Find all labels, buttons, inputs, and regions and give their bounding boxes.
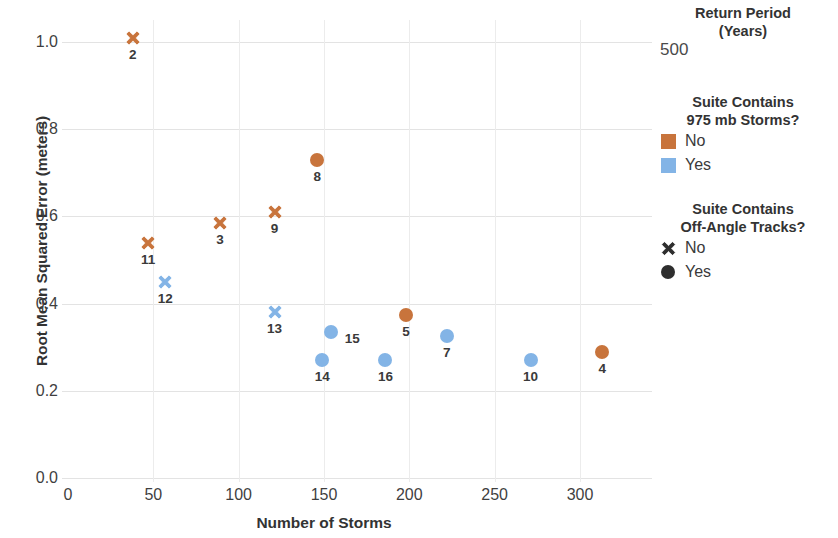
circle-marker-icon [324,325,338,339]
data-point-label: 4 [598,361,606,376]
data-point-label: 9 [271,221,279,236]
x-axis-tick-label: 150 [294,486,354,504]
legend-off-angle-title: Suite Contains Off-Angle Tracks? [654,200,838,236]
gridline-vertical [324,20,325,482]
legend-return-period-title-line1: Return Period [695,5,791,21]
color-swatch [660,133,676,149]
x-axis-tick-label: 250 [465,486,525,504]
legend-return-period-value: 500 [654,40,838,60]
circle-marker-icon [399,308,413,322]
legend-975mb-entries: NoYes [654,129,838,177]
scatter-chart: Root Mean Squared Error (meters) 0.00.20… [0,0,838,538]
x-marker-icon [267,205,282,220]
x-axis-tick-label: 0 [38,486,98,504]
color-swatch [660,157,676,173]
data-point-label: 15 [345,331,360,346]
gridline-horizontal [62,216,652,217]
legend-return-period-title: Return Period (Years) [654,4,838,40]
y-axis-tick-label: 1.0 [14,33,58,51]
gridline-horizontal [62,478,652,479]
legend-item-label: Yes [685,156,711,174]
legend-item-label: No [685,239,705,257]
legend-off-angle-tracks: Suite Contains Off-Angle Tracks? NoYes [654,200,838,284]
x-axis-tick-label: 200 [379,486,439,504]
gridline-vertical [239,20,240,482]
legend-975mb-title-line1: Suite Contains [692,94,794,110]
gridline-horizontal [62,42,652,43]
legend-return-period: Return Period (Years) 500 [654,4,838,60]
legend-return-period-title-line2: (Years) [719,23,767,39]
plot-area: 211123913815141657104 [62,20,652,482]
legend-off-angle-title-line1: Suite Contains [692,201,794,217]
circle-marker-icon [660,264,676,280]
y-axis-tick-label: 0.8 [14,120,58,138]
data-point-label: 3 [216,232,224,247]
x-marker-icon [212,215,227,230]
data-point-label: 11 [141,252,155,267]
data-point-label: 7 [443,345,451,360]
y-axis-tick-labels: 0.00.20.40.60.81.0 [0,0,58,538]
legend-975mb-title-line2: 975 mb Storms? [687,112,800,128]
legend-item-label: No [685,132,705,150]
gridline-horizontal [62,304,652,305]
legend-off-angle-title-line2: Off-Angle Tracks? [681,219,806,235]
gridline-vertical [495,20,496,482]
x-marker-icon [158,274,173,289]
x-marker-icon [267,305,282,320]
legend-975mb-title: Suite Contains 975 mb Storms? [654,93,838,129]
x-marker-icon [141,235,156,250]
legend-item[interactable]: No [654,236,838,260]
gridline-horizontal [62,129,652,130]
x-marker-icon [125,30,140,45]
circle-marker-icon [524,353,538,367]
x-axis-title: Number of Storms [68,514,580,532]
x-marker-icon [660,240,676,256]
gridline-vertical [580,20,581,482]
x-axis-tick-label: 300 [550,486,610,504]
data-point-label: 10 [523,369,538,384]
data-point-label: 2 [129,47,137,62]
legend-off-angle-entries: NoYes [654,236,838,284]
data-point-label: 16 [378,369,393,384]
y-axis-tick-label: 0.2 [14,382,58,400]
circle-marker-icon [440,329,454,343]
y-axis-tick-label: 0.6 [14,207,58,225]
y-axis-tick-label: 0.0 [14,469,58,487]
circle-marker-icon [315,353,329,367]
data-point-label: 5 [402,324,410,339]
data-point-label: 12 [158,291,173,306]
legend-item[interactable]: Yes [654,153,838,177]
legend-item-label: Yes [685,263,711,281]
legend-975mb-storms: Suite Contains 975 mb Storms? NoYes [654,93,838,177]
data-point-label: 14 [315,369,330,384]
y-axis-tick-label: 0.4 [14,295,58,313]
chart-legend: Return Period (Years) 500 Suite Contains… [654,0,838,538]
data-point-label: 8 [313,169,321,184]
x-axis-tick-label: 50 [123,486,183,504]
legend-item[interactable]: No [654,129,838,153]
gridline-vertical [409,20,410,482]
circle-marker-icon [595,345,609,359]
data-point-label: 13 [267,321,282,336]
circle-marker-icon [310,153,324,167]
legend-item[interactable]: Yes [654,260,838,284]
x-axis-tick-label: 100 [209,486,269,504]
gridline-horizontal [62,391,652,392]
circle-marker-icon [378,353,392,367]
